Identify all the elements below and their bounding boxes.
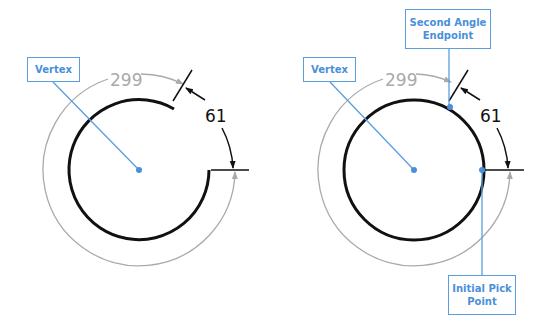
second-angle-endpoint-point <box>447 104 453 110</box>
right-minor-angle-value: 61 <box>480 106 502 126</box>
right-vertex-point <box>411 167 417 173</box>
left-diagram: 299 61 <box>43 70 249 266</box>
left-vertex-callout: Vertex <box>27 57 80 82</box>
initial-pick-point-point <box>479 167 485 173</box>
right-diagram: 299 61 <box>318 49 524 275</box>
left-extension-line-61 <box>173 70 192 101</box>
left-vertex-point <box>136 167 142 173</box>
left-minor-angle-value: 61 <box>205 106 227 126</box>
left-major-angle-value: 299 <box>110 70 142 90</box>
initial-pick-point-callout: Initial Pick Point <box>448 275 516 315</box>
right-vertex-callout: Vertex <box>303 57 356 82</box>
second-angle-endpoint-callout: Second Angle Endpoint <box>405 9 491 49</box>
right-major-angle-value: 299 <box>385 70 417 90</box>
